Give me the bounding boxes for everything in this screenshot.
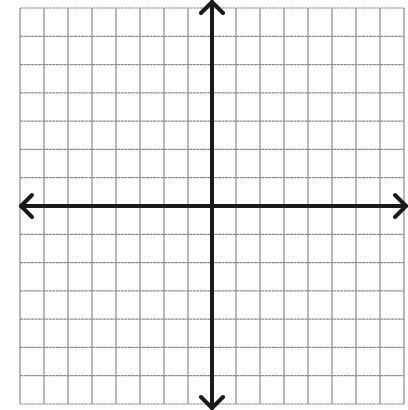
coordinate-grid-svg [0,0,408,410]
coordinate-plane [0,0,408,410]
